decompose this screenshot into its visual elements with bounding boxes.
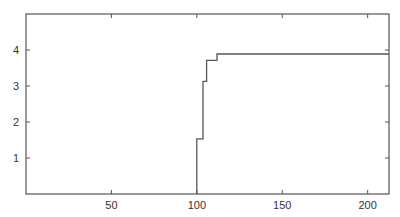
- y-tick-label: 3: [13, 80, 19, 92]
- y-tick-label: 4: [13, 44, 19, 56]
- plot-frame: [26, 14, 389, 194]
- step-series-line: [197, 54, 389, 194]
- y-tick-label: 1: [13, 152, 19, 164]
- x-tick-label: 150: [273, 199, 291, 211]
- x-tick-label: 50: [105, 199, 117, 211]
- y-tick-label: 2: [13, 116, 19, 128]
- x-axis-ticks: 50100150200: [105, 14, 377, 211]
- step-chart: 50100150200 1234: [0, 0, 400, 217]
- y-axis-ticks: 1234: [13, 44, 389, 164]
- x-tick-label: 100: [188, 199, 206, 211]
- x-tick-label: 200: [358, 199, 376, 211]
